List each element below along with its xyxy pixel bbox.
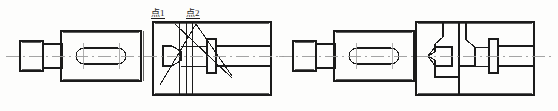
drawing-vector-layer [0,0,558,111]
left-diagonal-indicator-lines [160,24,232,85]
left-assembly-view [6,22,284,95]
right-cavity-profile-right [459,22,475,66]
annotation-point2: 点2 [186,8,200,19]
right-internal-bore-lines [475,47,489,66]
technical-drawing-canvas: 点1 点2 [0,0,558,111]
annotation-point1: 点1 [151,8,165,19]
right-v-notch-cone [428,47,452,66]
right-assembly-view [279,22,552,95]
